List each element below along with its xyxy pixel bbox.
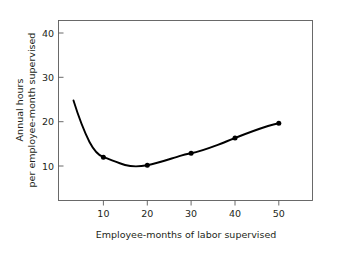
y-tick-label-20: 20 bbox=[42, 116, 54, 127]
y-tick-label-30: 30 bbox=[42, 72, 54, 83]
chart-figure: 40 30 20 10 10 20 30 40 50 Employee-mont… bbox=[0, 0, 338, 254]
data-point-marker bbox=[189, 151, 194, 156]
x-tick-label-50: 50 bbox=[273, 208, 285, 219]
chart-canvas: 40 30 20 10 10 20 30 40 50 Employee-mont… bbox=[0, 0, 338, 254]
x-tick-label-40: 40 bbox=[229, 208, 241, 219]
data-point-marker bbox=[101, 155, 106, 160]
data-point-marker bbox=[145, 163, 150, 168]
x-tick-label-10: 10 bbox=[97, 208, 109, 219]
x-axis-title: Employee-months of labor supervised bbox=[96, 229, 277, 240]
data-point-marker bbox=[276, 121, 281, 126]
x-tick-label-30: 30 bbox=[185, 208, 197, 219]
y-axis-title-line1: Annual hours bbox=[14, 79, 25, 142]
y-tick-label-10: 10 bbox=[42, 161, 54, 172]
data-point-marker bbox=[233, 136, 238, 141]
x-tick-label-20: 20 bbox=[141, 208, 153, 219]
y-tick-label-40: 40 bbox=[42, 28, 54, 39]
y-axis-title-line2: per employee-month supervised bbox=[26, 33, 37, 188]
